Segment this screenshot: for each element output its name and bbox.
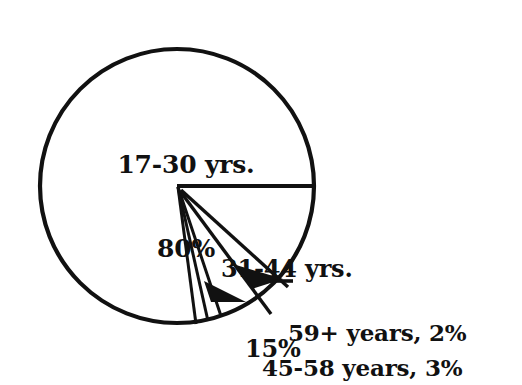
callout-label-45-58-text: 45-58 years, 3% (262, 355, 512, 381)
slice-label-17-30-category: 17-30 yrs. (102, 151, 270, 179)
callout-label-45-58: 45-58 years, 3% (262, 303, 512, 385)
